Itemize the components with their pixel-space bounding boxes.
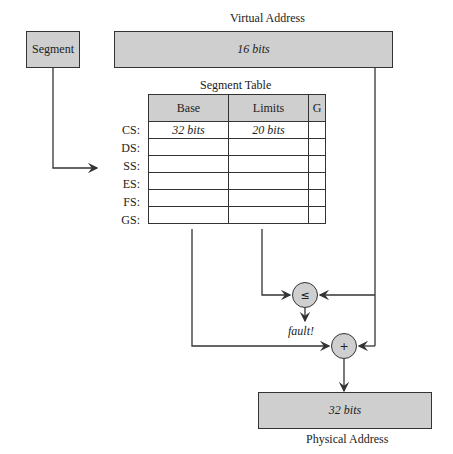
physical-address-box: 32 bits bbox=[258, 392, 432, 429]
table-row bbox=[149, 139, 326, 156]
table-row bbox=[149, 156, 326, 173]
segment-table: Base Limits G 32 bits20 bits bbox=[148, 94, 326, 224]
adder-circle: + bbox=[331, 333, 357, 359]
table-row bbox=[149, 207, 326, 224]
virtual-address-title: Virtual Address bbox=[230, 11, 305, 26]
reg-label-cs: CS: bbox=[100, 123, 140, 138]
physical-address-title: Physical Address bbox=[306, 432, 388, 447]
virtual-address-value: 16 bits bbox=[237, 42, 269, 57]
connector-wires bbox=[0, 0, 453, 454]
plus-icon: + bbox=[339, 340, 348, 353]
reg-label-gs: GS: bbox=[100, 213, 140, 228]
table-row: 32 bits20 bits bbox=[149, 122, 326, 139]
header-base: Base bbox=[149, 95, 229, 122]
table-row bbox=[149, 190, 326, 207]
header-limits: Limits bbox=[229, 95, 309, 122]
compare-circle: ≤ bbox=[292, 282, 318, 308]
table-row bbox=[149, 173, 326, 190]
reg-label-es: ES: bbox=[100, 177, 140, 192]
less-equal-icon: ≤ bbox=[300, 289, 309, 302]
reg-label-fs: FS: bbox=[100, 195, 140, 210]
segment-box: Segment bbox=[26, 31, 80, 68]
segment-table-title: Segment Table bbox=[200, 78, 271, 93]
reg-label-ss: SS: bbox=[100, 159, 140, 174]
header-g: G bbox=[309, 95, 326, 122]
fault-label: fault! bbox=[288, 324, 314, 339]
segment-label: Segment bbox=[32, 42, 74, 57]
reg-label-ds: DS: bbox=[100, 141, 140, 156]
physical-address-value: 32 bits bbox=[329, 403, 361, 418]
virtual-address-box: 16 bits bbox=[114, 31, 393, 68]
